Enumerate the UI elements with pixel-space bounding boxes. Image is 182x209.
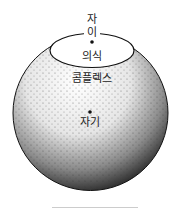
ego-label-top: 자: [84, 14, 100, 25]
ego-point: [90, 40, 94, 44]
complex-label: 콤플렉스: [62, 73, 122, 84]
self-label: 자기: [72, 117, 108, 128]
consciousness-label: 의식: [70, 51, 114, 62]
ego-label-bottom: 이: [84, 27, 100, 38]
self-point: [88, 110, 92, 114]
